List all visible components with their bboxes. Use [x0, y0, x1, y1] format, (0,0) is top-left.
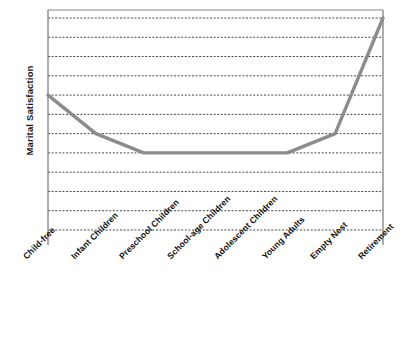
- gridlines: [48, 18, 383, 230]
- data-series-line: [48, 18, 383, 153]
- chart-plot-area: [0, 0, 410, 345]
- chart-figure: Marital Satisfaction Child-freeInfant Ch…: [0, 0, 410, 345]
- axis-lines: [48, 10, 383, 245]
